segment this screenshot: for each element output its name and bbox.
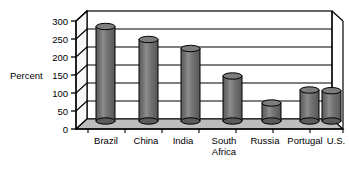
y-tick-label-100: 100 xyxy=(52,88,68,99)
x-label-portugal: Portugal xyxy=(287,135,322,146)
x-label-south-africa: South xyxy=(212,135,237,146)
x-label-us: U.S. xyxy=(327,135,345,146)
y-tick-label-300: 300 xyxy=(52,16,68,27)
x-label-india: India xyxy=(173,135,194,146)
bar-india xyxy=(181,45,200,124)
bar-brazil xyxy=(96,23,115,124)
chart-canvas: 300 250 200 150 100 50 0 Percent xyxy=(0,0,349,169)
y-tick-label-0: 0 xyxy=(63,124,68,135)
y-axis-tick-labels: 300 250 200 150 100 50 0 xyxy=(52,16,68,135)
x-label-china: China xyxy=(134,135,160,146)
bar-chart: 300 250 200 150 100 50 0 Percent xyxy=(0,0,349,169)
y-tick-label-50: 50 xyxy=(57,106,68,117)
bar-china xyxy=(139,36,158,124)
y-axis-ticks xyxy=(71,21,76,129)
x-label-brazil: Brazil xyxy=(94,135,118,146)
y-tick-label-150: 150 xyxy=(52,70,68,81)
x-label-south-africa-line2: Africa xyxy=(212,146,237,157)
bar-south-africa xyxy=(223,73,242,124)
y-tick-label-200: 200 xyxy=(52,52,68,63)
bar-russia xyxy=(262,100,281,124)
y-axis-title: Percent xyxy=(10,70,43,81)
plot-top-right-depth xyxy=(332,11,343,21)
y-tick-label-250: 250 xyxy=(52,34,68,45)
bar-us xyxy=(322,88,341,125)
bar-portugal xyxy=(300,87,319,124)
x-label-russia: Russia xyxy=(250,135,280,146)
x-axis-category-labels: Brazil China India South Africa Russia P… xyxy=(94,135,345,157)
